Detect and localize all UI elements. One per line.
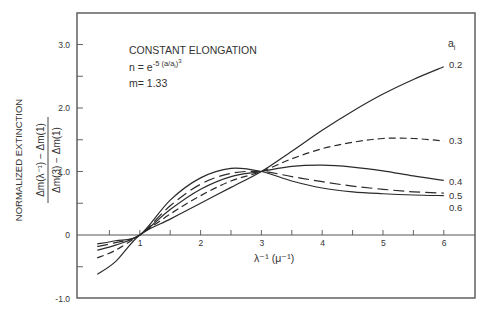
series-labels: 0.20.30.40.50.6 [449,59,462,214]
series-label-0.6: 0.6 [449,202,462,213]
chart: 1234563.02.01.00-1.0 0.20.30.40.50.6 CON… [0,0,489,313]
x-axis-label: λ⁻¹ (μ⁻¹) [254,252,294,264]
y-tick-label: -1.0 [55,294,70,304]
x-tick-label: 2 [199,238,204,248]
annotation: CONSTANT ELONGATION n = e-5 (a/ai)3 m= 1… [129,44,257,89]
x-tick-label: 4 [320,238,325,248]
x-tick-label: 1 [138,238,143,248]
legend-title: ai [448,37,456,51]
y-formula-denominator: Δm(3) − Δm(1) [51,127,62,193]
annotation-title: CONSTANT ELONGATION [129,44,257,56]
series-line-0.2 [97,67,444,275]
series-label-0.2: 0.2 [449,59,462,70]
y-axis-label: NORMALIZED EXTINCTION Δm(λ⁻¹) − Δm(1) Δm… [13,99,62,222]
series-line-0.6 [97,168,444,244]
series-line-0.4 [97,165,444,250]
y-tick-label: 2.0 [58,103,70,113]
series-line-0.3 [97,138,444,258]
y-axis-title: NORMALIZED EXTINCTION [13,99,24,222]
y-tick-label: 3.0 [58,40,70,50]
y-tick-label: 0 [65,230,70,240]
series-label-0.5: 0.5 [449,190,462,201]
x-tick-label: 6 [442,238,447,248]
series-label-0.3: 0.3 [449,135,462,146]
y-formula-numerator: Δm(λ⁻¹) − Δm(1) [35,123,46,197]
x-tick-label: 3 [259,238,264,248]
annotation-index: m= 1.33 [129,77,167,89]
series-label-0.4: 0.4 [449,176,462,187]
annotation-formula: n = e-5 (a/ai)3 [129,58,182,73]
series-group [97,67,444,275]
x-tick-label: 5 [381,238,386,248]
